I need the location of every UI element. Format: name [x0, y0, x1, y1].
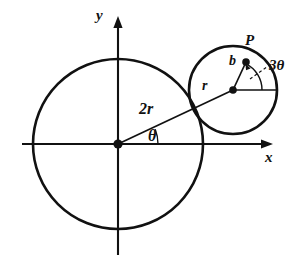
- small-radius-label: r: [202, 79, 207, 93]
- y-axis-arrowhead: [113, 16, 122, 28]
- three-theta-label: 3θ: [269, 58, 284, 73]
- y-axis: [113, 16, 122, 255]
- point-P-label: P: [245, 33, 254, 48]
- dashed-leader-to-3theta: [250, 64, 271, 79]
- rolling-center-dot: [229, 86, 237, 94]
- point-P-dot: [242, 58, 250, 66]
- big-radius-label: 2r: [139, 101, 153, 117]
- x-axis-label: x: [265, 150, 273, 165]
- offset-b-label: b: [229, 54, 236, 68]
- theta-angle-label: θ: [148, 128, 156, 144]
- x-axis-arrowhead: [261, 139, 273, 148]
- line-origin-to-rolling-center: [118, 90, 233, 144]
- origin-point-dot: [113, 139, 122, 148]
- y-axis-label: y: [96, 8, 103, 23]
- figure-canvas: y x 2r θ r b P 3θ: [0, 0, 302, 267]
